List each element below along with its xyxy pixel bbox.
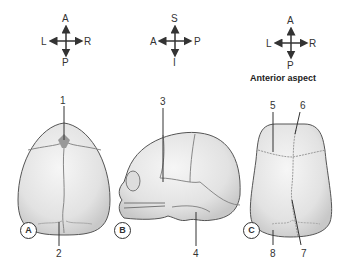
- skull-lateral-view: [119, 108, 240, 246]
- compass-c: [278, 31, 304, 55]
- compass-b-right-label: P: [194, 37, 201, 47]
- compass-a-down-label: P: [62, 58, 69, 68]
- label-2: 2: [56, 249, 62, 259]
- skull-anterior-view: [250, 112, 331, 245]
- compass-b-left-label: A: [150, 37, 157, 47]
- compass-c-down-label: P: [287, 61, 294, 71]
- label-6: 6: [300, 101, 306, 111]
- compass-a: [53, 29, 79, 53]
- compass-b: [162, 29, 188, 53]
- compass-c-right-label: R: [309, 39, 316, 49]
- label-5: 5: [270, 101, 276, 111]
- compass-a-right-label: R: [84, 37, 91, 47]
- panel-label-b: B: [114, 222, 131, 239]
- compass-c-left-label: L: [266, 39, 272, 49]
- anterior-aspect-caption: Anterior aspect: [250, 73, 316, 83]
- compass-a-left-label: L: [41, 37, 47, 47]
- label-8: 8: [270, 249, 276, 259]
- label-3: 3: [160, 97, 166, 107]
- compass-b-down-label: I: [173, 58, 176, 68]
- diagram-canvas: [0, 0, 348, 272]
- compass-c-up-label: A: [287, 16, 294, 26]
- panel-label-c: C: [243, 222, 260, 239]
- label-1: 1: [60, 96, 66, 106]
- label-4: 4: [193, 249, 199, 259]
- compass-a-up-label: A: [62, 14, 69, 24]
- label-7: 7: [301, 249, 307, 259]
- compass-b-up-label: S: [171, 14, 178, 24]
- panel-label-a: A: [20, 222, 37, 239]
